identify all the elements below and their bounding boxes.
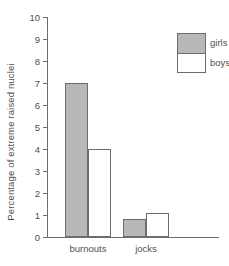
y-axis-title: Percentage of extreme raised nuclei [0,22,22,262]
y-tick-label-8: 8 [35,56,40,67]
y-tick-label-6: 6 [35,100,40,111]
x-axis-label-burnouts: burnouts [70,243,107,254]
y-tick-label-0: 0 [35,232,40,243]
legend-swatch-girls [178,34,205,54]
legend-label-girls: girls [210,37,227,48]
x-axis-line [47,237,219,238]
y-tick-label-10: 10 [29,12,40,23]
bar-jocks-girls [123,219,146,237]
y-tick-label-4: 4 [35,144,40,155]
legend-label-boys: boys [210,57,229,68]
y-tick-label-1: 1 [35,210,40,221]
bar-jocks-boys [146,213,169,237]
bottom-text-fragment [12,259,217,264]
y-tick-label-2: 2 [35,188,40,199]
bar-chart-figure: Percentage of extreme raised nuclei 10 9… [0,0,229,266]
bar-burnouts-girls [65,83,88,237]
y-tick-label-7: 7 [35,78,40,89]
x-axis-label-jocks: jocks [135,243,157,254]
bar-burnouts-boys [88,149,111,237]
legend [177,33,206,73]
y-axis-line [47,17,48,238]
legend-swatch-boys [178,54,205,72]
y-tick-label-5: 5 [35,122,40,133]
y-tick-label-3: 3 [35,166,40,177]
y-tick-label-9: 9 [35,34,40,45]
